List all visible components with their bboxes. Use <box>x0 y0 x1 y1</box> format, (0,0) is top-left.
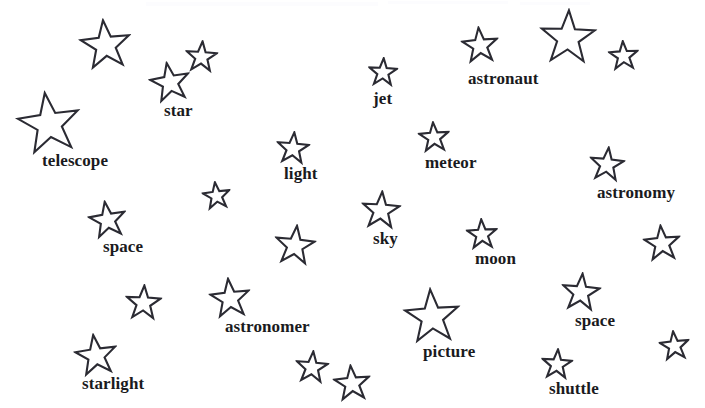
star-label: astronaut <box>468 70 539 87</box>
star-label: astronomy <box>597 184 675 201</box>
star-icon <box>465 217 499 251</box>
star-label: space <box>103 238 143 255</box>
star-meteor[interactable]: meteor <box>418 121 450 153</box>
star-unlabeled[interactable] <box>539 8 597 66</box>
star-icon <box>207 275 253 321</box>
star-light[interactable]: light <box>276 131 310 165</box>
star-icon <box>559 270 602 313</box>
star-icon <box>459 24 500 65</box>
star-icon <box>607 39 640 72</box>
star-telescope[interactable]: telescope <box>16 90 82 156</box>
star-icon <box>76 15 134 73</box>
star-icon <box>124 283 163 322</box>
star-unlabeled[interactable] <box>125 284 162 321</box>
star-icon <box>200 179 232 211</box>
star-shuttle[interactable]: shuttle <box>541 348 573 380</box>
star-jet[interactable]: jet <box>368 57 398 87</box>
star-label: telescope <box>42 152 108 169</box>
star-unlabeled[interactable] <box>202 181 231 210</box>
star-icon <box>360 189 403 232</box>
worksheet-canvas: startelescopejetastronautlightmeteorastr… <box>0 0 705 408</box>
star-sky[interactable]: sky <box>361 190 401 230</box>
star-unlabeled[interactable] <box>295 350 329 384</box>
star-unlabeled[interactable] <box>608 40 639 71</box>
star-icon <box>401 285 463 347</box>
star-icon <box>294 349 331 386</box>
star-moon[interactable]: moon <box>466 218 498 250</box>
star-label: picture <box>423 343 475 360</box>
star-icon <box>331 362 372 403</box>
star-label: star <box>164 102 193 119</box>
star-astronomer[interactable]: astronomer <box>209 277 251 319</box>
star-unlabeled[interactable] <box>79 18 132 71</box>
star-unlabeled[interactable] <box>274 224 316 266</box>
scan-artifact <box>146 2 378 6</box>
star-label: starlight <box>82 375 144 392</box>
star-icon <box>587 144 627 184</box>
star-icon <box>417 120 451 154</box>
star-icon <box>657 328 691 362</box>
star-label: shuttle <box>549 380 599 397</box>
star-icon <box>367 56 399 88</box>
scan-artifact <box>388 1 508 4</box>
star-picture[interactable]: picture <box>403 287 461 345</box>
star-astronomy[interactable]: astronomy <box>589 146 625 182</box>
star-label: jet <box>373 90 392 107</box>
star-icon <box>275 130 312 167</box>
star-unlabeled[interactable] <box>643 224 681 262</box>
star-space[interactable]: space <box>561 272 601 312</box>
star-icon <box>146 58 195 107</box>
star-icon <box>71 330 121 380</box>
star-label: light <box>284 165 318 182</box>
star-icon <box>641 222 682 263</box>
star-icon <box>540 347 574 381</box>
star-icon <box>12 86 87 161</box>
star-label: moon <box>475 250 516 267</box>
star-starlight[interactable]: starlight <box>74 333 118 377</box>
star-icon <box>538 7 598 67</box>
star-space[interactable]: space <box>88 200 127 239</box>
star-astronaut[interactable]: astronaut <box>461 26 499 64</box>
star-icon <box>272 222 318 268</box>
scan-artifact <box>520 2 590 5</box>
star-label: meteor <box>425 154 477 171</box>
star-label: astronomer <box>225 318 310 335</box>
star-icon <box>85 197 130 242</box>
star-label: sky <box>373 230 398 247</box>
star-unlabeled[interactable] <box>659 330 690 361</box>
star-unlabeled[interactable] <box>333 364 371 402</box>
star-label: space <box>575 312 615 329</box>
star-star[interactable]: star <box>149 61 191 103</box>
